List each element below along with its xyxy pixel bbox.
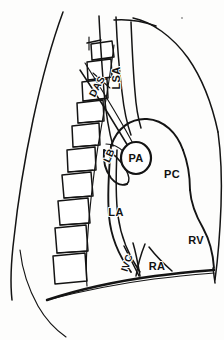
label-pa: PA: [128, 152, 143, 164]
vertebra-body-9: [55, 225, 88, 253]
lateral-chest-diagram: LSA DAS LB PA PC LA RV IVC RA: [0, 0, 224, 340]
lsa-top-cap: [114, 20, 156, 26]
vertebra-body-7: [62, 172, 93, 198]
label-la: LA: [108, 206, 123, 218]
lsa-right-wall: [131, 22, 141, 128]
vertebra-body-8: [58, 198, 90, 225]
vertebra-body-5: [72, 123, 100, 147]
label-pc: PC: [164, 168, 180, 180]
upper-posterior-cardiac-border: [183, 150, 190, 190]
image-speck: [181, 17, 183, 19]
diagram-canvas: LSA DAS LB PA PC LA RV IVC RA: [0, 0, 224, 340]
vertebra-body-4: [77, 100, 104, 123]
vertebra-body-10: [53, 253, 87, 284]
label-lsa: LSA: [110, 67, 122, 90]
anterior-cardiac-border: [190, 190, 214, 268]
anterior-chest-wall-lower: [215, 132, 221, 280]
label-ra: RA: [149, 260, 166, 272]
vertebra-body-1: [91, 41, 114, 60]
vertebra-body-6: [67, 147, 96, 172]
anterior-chest-wall-upper: [133, 18, 218, 132]
label-rv: RV: [188, 234, 204, 246]
